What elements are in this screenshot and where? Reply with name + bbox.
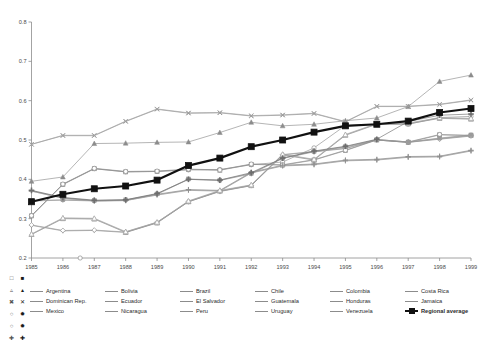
legend-label: Costa Rica <box>421 288 449 295</box>
marker-key-symbol: ■ <box>17 272 28 284</box>
legend-label: Jamaica <box>421 298 442 305</box>
y-axis-tick-label: 0.2 <box>19 255 27 261</box>
chart-page: 0.20.30.40.50.60.70.81985198619871988198… <box>0 0 482 345</box>
y-axis-tick-label: 0.6 <box>19 98 27 104</box>
chart-legend: ArgentinaBoliviaBrazilChileColombiaCosta… <box>30 286 480 316</box>
legend-swatch <box>330 291 343 292</box>
legend-item[interactable]: Venezuela <box>330 306 405 316</box>
legend-swatch <box>255 311 268 312</box>
legend-label: Brazil <box>196 288 210 295</box>
marker-key-symbol: ○ <box>6 320 17 332</box>
legend-label: Chile <box>271 288 284 295</box>
legend-item[interactable]: Brazil <box>180 286 255 296</box>
legend-label: Honduras <box>346 298 371 305</box>
legend-swatch <box>330 301 343 302</box>
legend-swatch <box>405 310 418 313</box>
legend-item[interactable]: Guatemala <box>255 296 330 306</box>
y-axis-tick-label: 0.8 <box>19 19 27 25</box>
legend-item[interactable]: Costa Rica <box>405 286 480 296</box>
x-axis-tick-label: 1996 <box>371 264 383 270</box>
x-axis-tick-label: 1990 <box>182 264 194 270</box>
legend-swatch <box>105 291 118 292</box>
legend-swatch <box>180 291 193 292</box>
y-axis-tick-label: 0.4 <box>19 176 27 182</box>
legend-label: Argentina <box>46 288 70 295</box>
legend-label: El Salvador <box>196 298 225 305</box>
legend-item[interactable]: Mexico <box>30 306 105 316</box>
marker-key-symbol: ✹ <box>17 308 28 320</box>
x-axis-tick-label: 1999 <box>465 264 477 270</box>
marker-key-symbol: ✚ <box>17 332 28 344</box>
legend-label: Nicaragua <box>121 308 147 315</box>
x-axis-tick-label: 1985 <box>25 264 37 270</box>
x-axis-tick-label: 1992 <box>245 264 257 270</box>
legend-item[interactable]: Dominican Rep. <box>30 296 105 306</box>
marker-key-symbol: ○ <box>6 308 17 320</box>
legend-item[interactable]: Honduras <box>330 296 405 306</box>
legend-swatch <box>405 301 418 302</box>
x-axis-tick-label: 1986 <box>57 264 69 270</box>
stray-marker <box>78 256 82 260</box>
legend-swatch <box>330 311 343 312</box>
legend-swatch <box>255 301 268 302</box>
x-axis-tick-label: 1987 <box>88 264 100 270</box>
x-axis-tick-label: 1994 <box>308 264 320 270</box>
x-axis-tick-label: 1998 <box>433 264 445 270</box>
y-axis-tick-label: 0.7 <box>19 58 27 64</box>
legend-label: Dominican Rep. <box>46 298 86 305</box>
x-axis-tick-label: 1995 <box>339 264 351 270</box>
legend-label: Ecuador <box>121 298 142 305</box>
legend-item[interactable]: Argentina <box>30 286 105 296</box>
legend-item[interactable]: Peru <box>180 306 255 316</box>
y-axis-tick-label: 0.5 <box>19 137 27 143</box>
y-axis-tick-label: 0.3 <box>19 216 27 222</box>
legend-label: Colombia <box>346 288 370 295</box>
legend-label: Peru <box>196 308 208 315</box>
x-axis-tick-label: 1988 <box>119 264 131 270</box>
x-axis-tick-label: 1993 <box>276 264 288 270</box>
legend-swatch <box>30 311 43 312</box>
marker-key-symbol: ▴ <box>17 284 28 296</box>
legend-swatch <box>405 291 418 292</box>
legend-item[interactable]: Chile <box>255 286 330 296</box>
legend-swatch <box>255 291 268 292</box>
legend-swatch <box>180 301 193 302</box>
legend-label: Uruguay <box>271 308 293 315</box>
legend-swatch <box>30 291 43 292</box>
legend-label: Bolivia <box>121 288 138 295</box>
marker-key-symbol: ▵ <box>6 284 17 296</box>
legend-label: Regional average <box>421 308 468 315</box>
marker-key-symbol: ✖ <box>6 296 17 308</box>
x-axis-tick-label: 1989 <box>151 264 163 270</box>
x-axis-tick-label: 1991 <box>214 264 226 270</box>
legend-swatch <box>180 311 193 312</box>
marker-key-symbol: ✕ <box>17 296 28 308</box>
legend-item[interactable]: Ecuador <box>105 296 180 306</box>
legend-item[interactable]: Nicaragua <box>105 306 180 316</box>
legend-item[interactable]: Colombia <box>330 286 405 296</box>
legend-item[interactable]: Bolivia <box>105 286 180 296</box>
legend-swatch <box>30 301 43 302</box>
legend-label: Mexico <box>46 308 64 315</box>
legend-label: Venezuela <box>346 308 373 315</box>
legend-swatch <box>105 311 118 312</box>
x-axis-tick-label: 1997 <box>402 264 414 270</box>
marker-key-symbol: ✚ <box>6 332 17 344</box>
legend-swatch <box>105 301 118 302</box>
marker-key-symbol: □ <box>6 272 17 284</box>
marker-key-symbol: ✹ <box>17 320 28 332</box>
legend-item[interactable]: Regional average <box>405 306 480 316</box>
marker-key-column: □■▵▴✖✕○✹○✹✚✚ <box>6 272 28 344</box>
legend-item[interactable]: El Salvador <box>180 296 255 306</box>
legend-label: Guatemala <box>271 298 299 305</box>
legend-item[interactable]: Uruguay <box>255 306 330 316</box>
legend-item[interactable]: Jamaica <box>405 296 480 306</box>
